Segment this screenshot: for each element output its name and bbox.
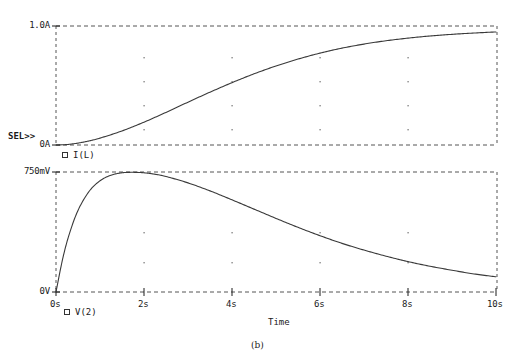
legend-lower-label: V(2) bbox=[75, 307, 97, 317]
x-axis-title: Time bbox=[268, 317, 290, 327]
upper-plot-frame bbox=[52, 26, 497, 145]
legend-upper-label: I(L) bbox=[73, 150, 95, 160]
lower-plot-frame bbox=[52, 172, 497, 292]
upper-grid-dots bbox=[143, 57, 408, 130]
xtick-label-1: 2s bbox=[138, 299, 148, 309]
xtick-label-0: 0s bbox=[50, 299, 60, 309]
xtick-label-2: 4s bbox=[226, 299, 236, 309]
legend-lower[interactable]: V(2) bbox=[64, 307, 97, 317]
xtick-label-3: 6s bbox=[314, 299, 324, 309]
figure-caption: (b) bbox=[251, 340, 264, 350]
lower-ytick-label-max: 750mV bbox=[2, 166, 50, 176]
lower-grid-dots bbox=[143, 232, 408, 263]
legend-upper[interactable]: I(L) bbox=[62, 150, 95, 160]
upper-ytick-label-min: 0A bbox=[8, 139, 50, 149]
xtick-label-4: 8s bbox=[402, 299, 412, 309]
trace-v-2 bbox=[56, 172, 496, 292]
figure-container: 1.0A SEL>> 0A I(L) 750mV 0V 0s 2s 4s 6s … bbox=[0, 0, 517, 361]
square-marker-icon bbox=[64, 309, 70, 315]
xtick-label-5: 10s bbox=[487, 299, 503, 309]
square-marker-icon bbox=[62, 152, 68, 158]
upper-ytick-label-max: 1.0A bbox=[8, 20, 50, 30]
trace-i-l bbox=[56, 32, 496, 145]
lower-ytick-label-min: 0V bbox=[2, 286, 50, 296]
